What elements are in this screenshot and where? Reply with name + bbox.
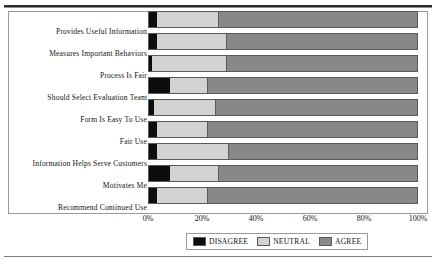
bar-segment-agree <box>227 56 417 71</box>
bar-segment-agree <box>229 144 417 159</box>
bar-segment-agree <box>208 122 417 137</box>
x-tick-label: 40% <box>249 213 264 224</box>
bar-row <box>148 11 418 28</box>
bar-segment-agree <box>227 34 417 49</box>
bar-segment-neutral <box>157 122 208 137</box>
category-label: Information Helps Serve Customers <box>0 159 147 169</box>
category-label: Recommend Continued Use <box>0 203 147 213</box>
x-tick-label: 20% <box>195 213 210 224</box>
x-tick-label: 0% <box>143 213 154 224</box>
bar-row <box>148 55 418 72</box>
bar-segment-neutral <box>152 56 227 71</box>
category-label: Measures Important Behaviors <box>0 49 147 59</box>
legend-swatch-icon <box>257 237 270 246</box>
bar-row <box>148 187 418 204</box>
bar-row <box>148 77 418 94</box>
bar-segment-agree <box>216 100 417 115</box>
category-label: Should Select Evaluation Team <box>0 93 147 103</box>
bar-segment-disagree <box>149 12 157 27</box>
bar-segment-neutral <box>157 34 227 49</box>
legend-swatch-icon <box>193 237 206 246</box>
bar-segment-agree <box>208 78 417 93</box>
bar-segment-agree <box>219 166 417 181</box>
legend-swatch-icon <box>319 237 332 246</box>
bar-segment-disagree <box>149 122 157 137</box>
bar-segment-neutral <box>157 144 229 159</box>
bar-segment-neutral <box>170 166 218 181</box>
bar-segment-disagree <box>149 78 170 93</box>
bar-segment-neutral <box>170 78 208 93</box>
category-label: Fair Use <box>0 137 147 147</box>
legend-item: NEUTRAL <box>257 237 310 246</box>
legend-label: DISAGREE <box>209 237 248 246</box>
bar-segment-disagree <box>149 188 157 203</box>
bar-row <box>148 121 418 138</box>
x-tick-label: 100% <box>409 213 428 224</box>
legend-label: NEUTRAL <box>273 237 310 246</box>
bar-segment-neutral <box>154 100 216 115</box>
bar-segment-disagree <box>149 144 157 159</box>
bar-segment-neutral <box>157 12 219 27</box>
bar-row <box>148 33 418 50</box>
chart-legend: DISAGREENEUTRALAGREE <box>186 233 368 250</box>
bar-segment-neutral <box>157 188 208 203</box>
x-tick-label: 80% <box>357 213 372 224</box>
x-axis-tick-labels: 0%20%40%60%80%100% <box>148 213 418 225</box>
legend-item: DISAGREE <box>193 237 248 246</box>
bar-segment-disagree <box>149 34 157 49</box>
legend-label: AGREE <box>335 237 361 246</box>
category-label: Form Is Easy To Use <box>0 115 147 125</box>
bar-segment-disagree <box>149 166 170 181</box>
category-label: Process Is Fair <box>0 71 147 81</box>
category-label: Provides Useful Information <box>0 27 147 37</box>
legend-item: AGREE <box>319 237 361 246</box>
bar-segment-agree <box>219 12 417 27</box>
bar-row <box>148 165 418 182</box>
plot-area <box>148 11 418 210</box>
page-rule-top <box>4 5 432 7</box>
bar-row <box>148 99 418 116</box>
category-label: Motivates Me <box>0 181 147 191</box>
bar-row <box>148 143 418 160</box>
page-rule-bottom <box>4 256 432 257</box>
x-tick-label: 60% <box>303 213 318 224</box>
bar-segment-agree <box>208 188 417 203</box>
